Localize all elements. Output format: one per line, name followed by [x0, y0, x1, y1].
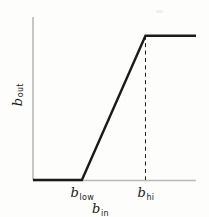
tick-label-b-low-variable: b	[70, 185, 79, 200]
y-axis-label: bout	[2, 80, 32, 110]
x-axis-label-subscript: in	[101, 209, 109, 217]
y-axis-label-subscript: out	[16, 83, 25, 97]
tick-label-b-low-subscript: low	[79, 193, 94, 202]
x-axis-label: bin	[92, 198, 108, 217]
tick-label-b-hi-variable: b	[137, 185, 146, 200]
transfer-curve	[33, 36, 196, 180]
tick-label-b-low: blow	[70, 182, 93, 201]
tick-label-b-hi: bhi	[137, 182, 153, 201]
y-axis-label-variable: b	[10, 98, 25, 107]
x-axis-label-variable: b	[92, 201, 101, 216]
tick-label-b-hi-subscript: hi	[147, 193, 155, 202]
chart-figure: bout bin blow bhi	[0, 0, 209, 217]
scan-artifact-speck	[156, 10, 163, 13]
